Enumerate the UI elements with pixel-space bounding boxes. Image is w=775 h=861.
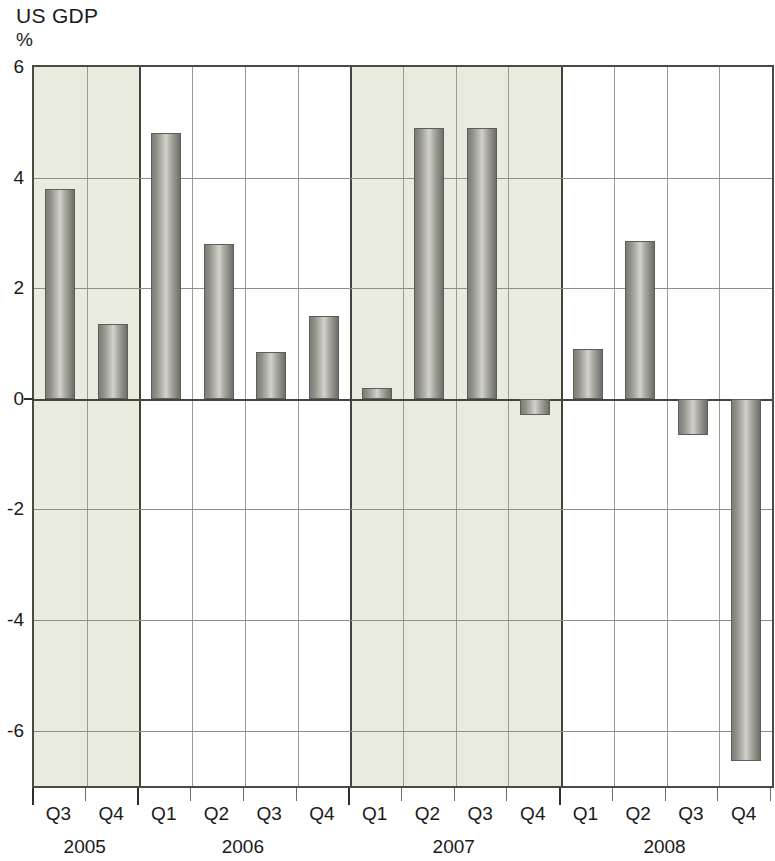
bar-2006-Q4 <box>309 316 339 399</box>
y-tick-label-0: 0 <box>0 388 24 410</box>
x-tick-mark <box>770 788 771 801</box>
gridline-2 <box>34 288 772 289</box>
bar-2005-Q3 <box>45 189 75 399</box>
x-tick-mark <box>559 788 561 805</box>
x-tick-label-2008-Q1: Q1 <box>573 803 598 825</box>
x-tick-mark <box>506 788 507 801</box>
quarter-gridline <box>403 67 404 786</box>
bar-2008-Q2 <box>625 241 655 399</box>
bar-2007-Q1 <box>362 388 392 399</box>
x-tick-mark <box>85 788 86 801</box>
year-divider-2008 <box>561 67 563 786</box>
x-tick-mark <box>401 788 402 801</box>
gridline--2 <box>34 509 772 510</box>
quarter-gridline <box>614 67 615 786</box>
y-tick-label-4: 4 <box>0 167 24 189</box>
x-tick-label-2007-Q4: Q4 <box>520 803 545 825</box>
x-tick-mark <box>190 788 191 801</box>
quarter-gridline <box>192 67 193 786</box>
chart-root: US GDP % Q3Q42005Q1Q2Q3Q42006Q1Q2Q3Q4200… <box>0 0 775 861</box>
y-axis-unit-label: % <box>16 29 33 51</box>
quarter-gridline <box>719 67 720 786</box>
bar-2008-Q1 <box>573 349 603 399</box>
quarter-gridline <box>456 67 457 786</box>
x-tick-label-2007-Q2: Q2 <box>415 803 440 825</box>
y-tick-label-6: 6 <box>0 56 24 78</box>
bar-2008-Q3 <box>678 399 708 435</box>
chart-title: US GDP <box>16 4 98 28</box>
x-tick-label-2007-Q3: Q3 <box>467 803 492 825</box>
quarter-gridline <box>298 67 299 786</box>
x-tick-label-2006-Q1: Q1 <box>151 803 176 825</box>
bar-2007-Q2 <box>414 128 444 399</box>
x-tick-mark <box>243 788 244 801</box>
bar-2007-Q3 <box>467 128 497 399</box>
quarter-gridline <box>508 67 509 786</box>
x-year-label-2005: 2005 <box>64 836 106 858</box>
quarter-gridline <box>87 67 88 786</box>
x-tick-mark <box>717 788 718 801</box>
x-tick-label-2008-Q3: Q3 <box>678 803 703 825</box>
zero-line <box>34 399 772 401</box>
x-year-label-2007: 2007 <box>433 836 475 858</box>
x-tick-label-2006-Q3: Q3 <box>257 803 282 825</box>
plot-area <box>32 65 774 788</box>
gridline--4 <box>34 620 772 621</box>
y-tick-label--4: -4 <box>0 609 24 631</box>
x-tick-mark <box>32 788 34 805</box>
x-tick-label-2005-Q4: Q4 <box>98 803 123 825</box>
quarter-gridline <box>245 67 246 786</box>
x-tick-label-2006-Q2: Q2 <box>204 803 229 825</box>
bar-2006-Q2 <box>204 244 234 399</box>
bar-2007-Q4 <box>520 399 550 416</box>
y-tick-mark-0 <box>24 398 33 400</box>
x-year-label-2008: 2008 <box>643 836 685 858</box>
y-tick-label--6: -6 <box>0 720 24 742</box>
x-year-label-2006: 2006 <box>222 836 264 858</box>
x-tick-label-2005-Q3: Q3 <box>46 803 71 825</box>
x-tick-label-2008-Q4: Q4 <box>731 803 756 825</box>
x-axis: Q3Q42005Q1Q2Q3Q42006Q1Q2Q3Q42007Q1Q2Q3Q4… <box>32 788 774 861</box>
bar-2008-Q4 <box>731 399 761 761</box>
x-tick-label-2006-Q4: Q4 <box>309 803 334 825</box>
x-tick-mark <box>348 788 350 805</box>
y-tick-label-2: 2 <box>0 277 24 299</box>
x-tick-mark <box>296 788 297 801</box>
gridline--6 <box>34 731 772 732</box>
x-tick-mark <box>665 788 666 801</box>
bar-2006-Q3 <box>256 352 286 399</box>
x-tick-label-2008-Q2: Q2 <box>626 803 651 825</box>
quarter-gridline <box>667 67 668 786</box>
x-tick-mark <box>454 788 455 801</box>
x-tick-mark <box>612 788 613 801</box>
y-tick-label--2: -2 <box>0 498 24 520</box>
gridline-4 <box>34 178 772 179</box>
year-divider-2007 <box>350 67 352 786</box>
year-divider-2006 <box>139 67 141 786</box>
x-tick-mark <box>137 788 139 805</box>
bar-2005-Q4 <box>98 324 128 399</box>
x-tick-label-2007-Q1: Q1 <box>362 803 387 825</box>
bar-2006-Q1 <box>151 133 181 398</box>
